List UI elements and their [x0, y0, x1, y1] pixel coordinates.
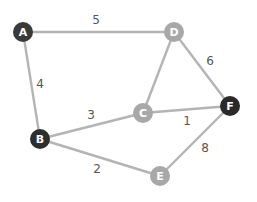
node-d: D — [164, 22, 184, 42]
weight-b-c: 3 — [87, 108, 95, 122]
node-b: B — [30, 129, 50, 149]
weight-a-b: 4 — [36, 77, 44, 91]
edge-d-c — [143, 32, 174, 113]
node-b-label: B — [36, 133, 44, 146]
edge-c-f — [143, 106, 230, 113]
node-c-label: C — [139, 107, 147, 120]
edge-e-f — [160, 106, 230, 176]
node-a-label: A — [19, 26, 28, 39]
node-a: A — [13, 22, 33, 42]
node-f-label: F — [226, 100, 234, 113]
weight-b-e: 2 — [93, 162, 101, 176]
weight-d-f: 6 — [206, 54, 214, 68]
node-c: C — [133, 103, 153, 123]
weight-e-f: 8 — [201, 141, 209, 155]
weight-a-d: 5 — [92, 13, 100, 27]
node-e: E — [150, 166, 170, 186]
edge-d-f — [174, 32, 230, 106]
node-d-label: D — [169, 26, 178, 39]
node-f: F — [220, 96, 240, 116]
node-e-label: E — [156, 170, 164, 183]
graph-diagram: 5 4 6 3 1 2 8 A D B C F E — [0, 0, 257, 202]
weight-c-f: 1 — [183, 114, 191, 128]
